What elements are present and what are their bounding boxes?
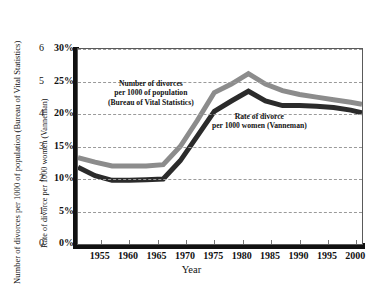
x-tick-label: 1965: [147, 250, 167, 262]
x-tick-mark: [243, 240, 244, 244]
y-tick-outer: 5: [39, 76, 44, 86]
plot-area: [77, 48, 363, 245]
y-tick-inner: 5%: [59, 206, 74, 216]
y-tick-outer: 3: [39, 141, 44, 151]
y-tick-outer: 4: [39, 108, 44, 118]
annotation-line: Number of divorces: [108, 79, 194, 88]
x-tick-label: 1985: [260, 250, 280, 262]
annotation-line: per 1000 women (Vanneman): [212, 121, 307, 130]
y-axis-outer-ticks: 6543210: [24, 40, 44, 252]
x-tick-label: 2000: [345, 250, 365, 262]
annotation-vanneman: Rate of divorceper 1000 women (Vanneman): [212, 112, 307, 131]
y-axis-outer-title: Number of divorces per 1000 of populatio…: [12, 41, 22, 284]
x-tick-mark: [356, 240, 357, 244]
y-tick-inner: 15%: [54, 141, 74, 151]
x-tick-label: 1970: [175, 250, 195, 262]
x-tick-label: 1975: [203, 250, 223, 262]
x-tick-label: 1995: [317, 250, 337, 262]
x-tick-label: 1955: [90, 250, 110, 262]
x-tick-mark: [129, 240, 130, 244]
x-tick-label: 1980: [232, 250, 252, 262]
annotation-line: per 1000 of population: [108, 88, 194, 97]
x-tick-mark: [214, 240, 215, 244]
annotation-bureau-of-vital-statistics: Number of divorcesper 1000 of population…: [108, 79, 194, 107]
x-tick-mark: [101, 240, 102, 244]
x-tick-label: 1990: [289, 250, 309, 262]
y-tick-inner: 30%: [54, 43, 74, 53]
x-tick-mark: [186, 240, 187, 244]
x-tick-label: 1960: [118, 250, 138, 262]
annotation-line: Rate of divorce: [212, 112, 307, 121]
gridline: [78, 212, 362, 213]
x-tick-mark: [300, 240, 301, 244]
y-tick-inner: 10%: [54, 173, 74, 183]
x-tick-mark: [158, 240, 159, 244]
gridline: [78, 49, 362, 50]
gridline: [78, 179, 362, 180]
gridline: [78, 147, 362, 148]
x-axis-ticks: 1955196019651970197519801985199019952000: [77, 250, 363, 264]
y-tick-outer: 1: [39, 206, 44, 216]
y-tick-inner: 20%: [54, 108, 74, 118]
y-tick-outer: 0: [39, 238, 44, 248]
y-tick-outer: 2: [39, 173, 44, 183]
y-axis-inner-ticks: 30%25%20%15%10%5%0%: [48, 40, 76, 252]
y-tick-inner: 0%: [59, 238, 74, 248]
x-tick-mark: [271, 240, 272, 244]
y-tick-outer: 6: [39, 43, 44, 53]
x-axis-title: Year: [0, 264, 383, 275]
x-tick-mark: [328, 240, 329, 244]
y-tick-inner: 25%: [54, 76, 74, 86]
annotation-line: (Bureau of Vital Statistics): [108, 98, 194, 107]
chart-figure: Number of divorces per 1000 of populatio…: [0, 0, 383, 291]
